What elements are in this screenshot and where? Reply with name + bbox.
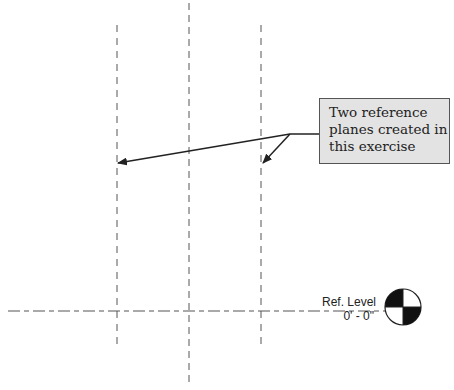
- drawing-canvas: [0, 0, 454, 390]
- level-head-icon[interactable]: [385, 289, 421, 325]
- callout-box: Two reference planes created in this exe…: [319, 98, 450, 164]
- callout-leader-arrows: [118, 134, 319, 163]
- level-elevation-label[interactable]: 0' - 0": [343, 309, 374, 323]
- callout-line: planes created in: [329, 121, 443, 138]
- callout-line: Two reference: [329, 104, 443, 121]
- level-name-label[interactable]: Ref. Level: [322, 295, 376, 309]
- callout-line: this exercise: [329, 138, 443, 155]
